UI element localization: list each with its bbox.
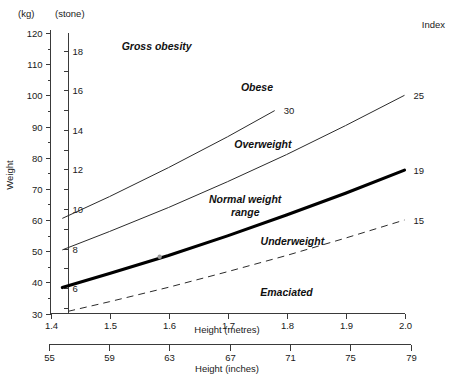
zone-label: Underweight [261, 235, 325, 247]
index-label-30: 30 [284, 105, 295, 116]
height-inches-ticklabel: 79 [406, 352, 417, 363]
bmi-curve-25 [62, 95, 404, 250]
bmi-chart-svg: 304050607080901001101206810121416181.41.… [0, 0, 460, 379]
weight-axis-title: Weight [4, 160, 15, 190]
height-metres-ticklabel: 1.4 [45, 320, 58, 331]
index-label-15: 15 [414, 215, 425, 226]
weight-ticklabel: 60 [32, 215, 43, 226]
data-marker [157, 255, 161, 259]
weight-ticklabel: 30 [32, 309, 43, 320]
weight-ticklabel: 80 [32, 153, 43, 164]
marker-points-group [157, 255, 161, 259]
height-metres-ticklabel: 1.9 [340, 320, 353, 331]
height-inches-axis-title: Height (inches) [195, 363, 259, 374]
stone-ticklabel: 12 [73, 164, 84, 175]
height-inches-ticklabel: 75 [345, 352, 356, 363]
weight-ticklabel: 120 [27, 28, 43, 39]
index-labels-group: 30251915 [284, 90, 424, 226]
height-inches-ticklabel: 67 [225, 352, 236, 363]
height-inches-ticklabel: 71 [285, 352, 296, 363]
index-axis-title: Index [422, 19, 445, 30]
height-metres-axis-title: Height (metres) [194, 324, 259, 335]
zone-label: Normal weight [209, 193, 282, 205]
height-metres-ticklabel: 1.6 [163, 320, 176, 331]
zone-label: Emaciated [260, 286, 313, 298]
index-label-25: 25 [414, 90, 425, 101]
zone-label: Overweight [234, 138, 292, 150]
bmi-chart: 304050607080901001101206810121416181.41.… [0, 0, 460, 379]
height-inches-ticklabel: 55 [44, 352, 55, 363]
height-metres-ticklabel: 2.0 [399, 320, 412, 331]
weight-ticklabel: 70 [32, 184, 43, 195]
stone-ticklabel: 18 [73, 46, 84, 57]
height-metres-ticklabel: 1.8 [281, 320, 294, 331]
index-label-19: 19 [414, 165, 425, 176]
weight-ticklabel: 50 [32, 246, 43, 257]
height-inches-ticklabel: 59 [104, 352, 115, 363]
stone-ticklabel: 16 [73, 85, 84, 96]
zone-label: Gross obesity [122, 40, 193, 52]
weight-ticklabel: 100 [27, 90, 43, 101]
weight-ticklabel: 40 [32, 277, 43, 288]
zone-label: range [231, 206, 260, 218]
weight-ticklabel: 110 [27, 59, 42, 70]
stone-ticklabel: 14 [73, 125, 84, 136]
height-inches-ticklabel: 63 [164, 352, 175, 363]
height-metres-ticklabel: 1.5 [104, 320, 117, 331]
zone-label: Obese [241, 81, 273, 93]
stone-unit-label: (stone) [55, 8, 85, 19]
weight-ticklabel: 90 [32, 122, 43, 133]
kg-unit-label: (kg) [18, 8, 34, 19]
